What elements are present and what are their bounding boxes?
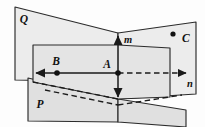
diagram-canvas: Q P m n A B C [0,0,205,127]
line-n-label: n [187,78,193,89]
point-b-label: B [51,55,60,67]
point-a-dot [115,70,121,76]
point-c-label: C [182,32,190,44]
point-b-dot [54,70,60,76]
geometry-diagram: Q P m n A B C [0,0,205,127]
plane-p-label: P [36,98,44,110]
point-a-label: A [102,58,111,70]
plane-q-label: Q [20,13,28,25]
line-m-label: m [124,34,132,45]
point-c-dot [170,31,175,36]
